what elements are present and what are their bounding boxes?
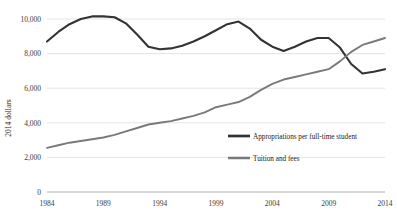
chart-legend: Appropriations per full-time studentTuit… [228,133,357,163]
x-tick-label: 1999 [209,199,224,208]
y-axis-label: 2014 dollars [4,99,13,136]
y-tick-label: 6,000 [24,84,41,93]
chart-container: 02,0004,0006,0008,00010,000 198419891994… [0,0,397,224]
x-tick-label: 2014 [378,199,393,208]
x-axis-tick-labels: 1984198919941999200420092014 [40,199,393,208]
gridlines [47,19,385,192]
x-tick-label: 2004 [265,199,280,208]
legend-label-1: Tuition and fees [253,155,300,163]
y-tick-label: 10,000 [20,15,41,24]
x-tick-label: 1984 [40,199,55,208]
y-axis-tick-labels: 02,0004,0006,0008,00010,000 [20,15,41,197]
x-tick-label: 1994 [152,199,167,208]
data-series [47,16,385,147]
y-tick-label: 0 [37,188,41,197]
series-line-1 [47,38,385,148]
x-tick-label: 1989 [96,199,111,208]
y-tick-label: 2,000 [24,153,41,162]
line-chart: 02,0004,0006,0008,00010,000 198419891994… [0,0,397,224]
x-tick-label: 2009 [321,199,336,208]
y-tick-label: 4,000 [24,119,41,128]
legend-label-0: Appropriations per full-time student [253,133,357,141]
y-tick-label: 8,000 [24,49,41,58]
